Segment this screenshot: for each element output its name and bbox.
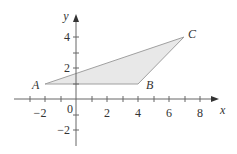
y-tick-label: 4 — [64, 30, 70, 44]
origin-label: 0 — [67, 102, 73, 116]
point-b-label: B — [146, 78, 154, 92]
x-axis-arrow-icon — [211, 96, 219, 102]
x-tick-label: 8 — [197, 106, 203, 120]
x-tick-label: −2 — [34, 106, 47, 120]
coordinate-diagram: −2 0 2 4 6 8 4 2 −2 x y A B C — [0, 0, 237, 154]
x-tick-label: 4 — [135, 106, 141, 120]
y-axis-arrow-icon — [73, 14, 79, 22]
point-c-label: C — [188, 27, 197, 41]
point-a-label: A — [31, 78, 40, 92]
y-tick-label: −2 — [57, 123, 70, 137]
x-axis-label: x — [219, 103, 226, 117]
x-tick-label: 2 — [104, 106, 110, 120]
x-tick-label: 6 — [166, 106, 172, 120]
y-tick-label: 2 — [64, 61, 70, 75]
diagram-svg: −2 0 2 4 6 8 4 2 −2 x y A B C — [0, 0, 237, 154]
y-axis-label: y — [62, 9, 69, 23]
